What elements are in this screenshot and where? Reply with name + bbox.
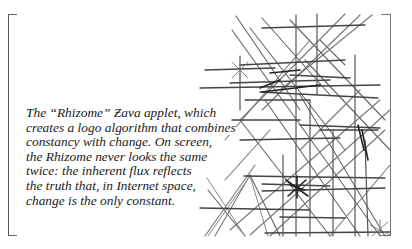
caption-line: The “Rhizome” Ƶava applet, which [26,106,216,121]
caption-line: the truth that, in Internet space, [26,179,196,194]
caption-line: constancy with change. On screen, [26,135,212,150]
caption-line: creates a logo algorithm that combines [26,121,236,136]
caption: The “Rhizome” Ƶava applet, which creates… [26,106,246,208]
caption-line: the Rhizome never looks the same [26,150,207,165]
caption-line: change is the only constant. [26,194,175,209]
caption-line: twice: the inherent flux reflects [26,164,192,179]
